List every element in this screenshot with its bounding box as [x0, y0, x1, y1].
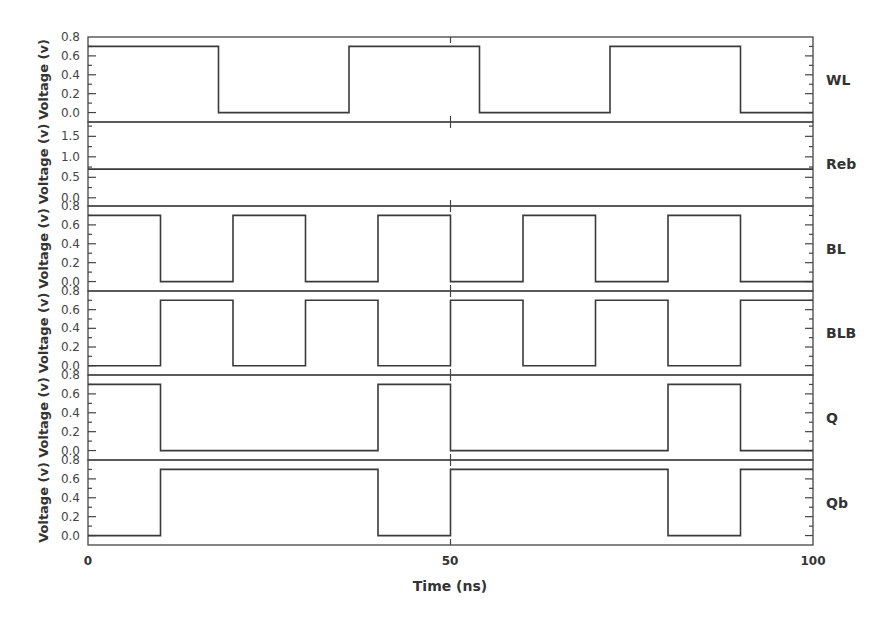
- y-axis-title: Voltage (v): [36, 462, 51, 543]
- y-tick-label: 0.8: [61, 30, 80, 44]
- y-tick-label: 0.6: [61, 49, 80, 63]
- y-tick-label: 0.5: [61, 170, 80, 184]
- waveform-wl: [88, 46, 813, 112]
- y-tick-label: 0.8: [61, 284, 80, 298]
- y-tick-label: 0.6: [61, 387, 80, 401]
- panel-q: 0.00.20.40.60.8Voltage (v)Q: [36, 368, 838, 460]
- y-tick-label: 0.4: [61, 406, 80, 420]
- y-tick-label: 0.4: [61, 491, 80, 505]
- y-tick-label: 1.0: [61, 150, 80, 164]
- y-tick-label: 0.8: [61, 453, 80, 467]
- y-axis-title: Voltage (v): [36, 377, 51, 458]
- y-tick-label: 0.6: [61, 303, 80, 317]
- signal-label-qb: Qb: [826, 495, 848, 511]
- y-tick-label: 0.2: [61, 256, 80, 270]
- y-tick-label: 0.6: [61, 472, 80, 486]
- waveform-bl: [88, 215, 813, 281]
- waveform-qb: [88, 469, 813, 535]
- y-axis-title: Voltage (v): [36, 293, 51, 374]
- signal-label-wl: WL: [826, 72, 850, 88]
- y-tick-label: 0.8: [61, 199, 80, 213]
- x-axis-title: Time (ns): [413, 578, 487, 594]
- y-tick-label: 0.4: [61, 237, 80, 251]
- y-tick-label: 0.8: [61, 368, 80, 382]
- panel-qb: 0.00.20.40.60.8Voltage (v)Qb: [36, 453, 848, 545]
- y-tick-label: 1.5: [61, 129, 80, 143]
- y-tick-label: 0.4: [61, 68, 80, 82]
- y-tick-label: 0.6: [61, 218, 80, 232]
- y-tick-label: 0.0: [61, 106, 80, 120]
- y-tick-label: 0.4: [61, 321, 80, 335]
- y-tick-label: 0.2: [61, 425, 80, 439]
- signal-label-blb: BLB: [826, 325, 856, 341]
- y-tick-label: 0.2: [61, 340, 80, 354]
- x-tick-label-50: 50: [442, 554, 459, 568]
- y-tick-label: 0.2: [61, 87, 80, 101]
- x-tick-label-100: 100: [800, 554, 825, 568]
- waveform-blb: [88, 300, 813, 365]
- panel-bl: 0.00.20.40.60.8Voltage (v)BL: [36, 199, 846, 291]
- waveform-q: [88, 384, 813, 450]
- panel-frame: [88, 122, 813, 206]
- panel-blb: 0.00.20.40.60.8Voltage (v)BLB: [36, 284, 856, 375]
- panel-wl: 0.00.20.40.60.8Voltage (v)WL: [36, 30, 850, 122]
- y-axis-title: Voltage (v): [36, 124, 51, 205]
- panels-group: 0.00.20.40.60.8Voltage (v)WL0.00.51.01.5…: [36, 30, 856, 545]
- y-axis-title: Voltage (v): [36, 208, 51, 289]
- waveform-chart: 0.00.20.40.60.8Voltage (v)WL0.00.51.01.5…: [0, 0, 884, 624]
- y-tick-label: 0.0: [61, 529, 80, 543]
- panel-frame: [88, 37, 813, 122]
- y-tick-label: 0.2: [61, 510, 80, 524]
- signal-label-reb: Reb: [826, 156, 856, 172]
- signal-label-q: Q: [826, 410, 838, 426]
- x-tick-label-0: 0: [84, 554, 92, 568]
- signal-label-bl: BL: [826, 241, 846, 257]
- x-axis: 0 50 100 Time (ns): [84, 554, 826, 594]
- y-axis-title: Voltage (v): [36, 39, 51, 120]
- panel-reb: 0.00.51.01.5Voltage (v)Reb: [36, 122, 856, 206]
